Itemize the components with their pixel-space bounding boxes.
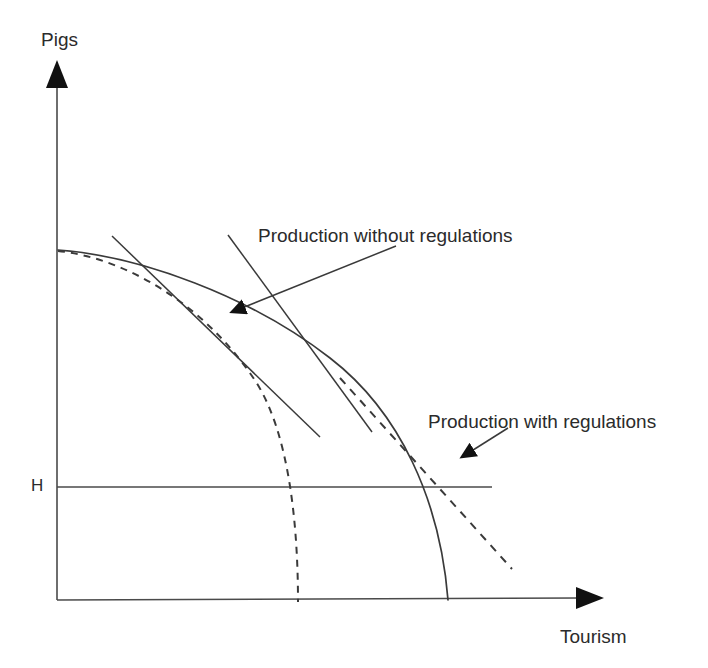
ppf-curve-with-regulations — [58, 251, 298, 602]
x-axis-line — [57, 598, 580, 600]
x-axis-label: Tourism — [560, 626, 627, 648]
y-axis-label: Pigs — [41, 29, 78, 51]
x-axis-arrowhead — [576, 587, 604, 609]
ppf-curve-without-regulations — [58, 250, 448, 600]
annotation-label-without-regulations: Production without regulations — [258, 225, 513, 247]
ppf-diagram — [0, 0, 708, 668]
tangent-line-unregulated — [112, 236, 320, 437]
h-line-label: H — [31, 476, 43, 496]
tangent-line-regulated-dashed — [340, 378, 512, 569]
y-axis-arrowhead — [46, 60, 68, 88]
annotation-arrow-without-regulations — [232, 246, 396, 312]
annotation-label-with-regulations: Production with regulations — [428, 411, 656, 433]
axes-group — [46, 60, 604, 609]
